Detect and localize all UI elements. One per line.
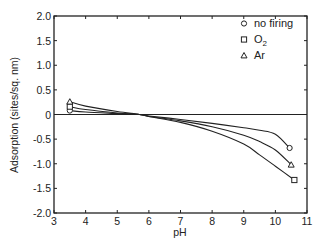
triangle-marker-icon bbox=[241, 53, 247, 58]
x-tick-label: 6 bbox=[146, 215, 152, 227]
legend-subscript: 2 bbox=[263, 39, 268, 48]
y-tick-label: -0.5 bbox=[33, 133, 51, 145]
x-tick-label: 4 bbox=[83, 215, 89, 227]
y-tick-label: 1.0 bbox=[36, 59, 51, 71]
data-curves bbox=[70, 102, 295, 180]
legend-label: Ar bbox=[254, 49, 265, 61]
legend: no firingO2Ar bbox=[241, 17, 293, 61]
x-tick-label: 11 bbox=[302, 215, 313, 227]
legend-label: no firing bbox=[254, 17, 293, 29]
adsorption-chart: 345678910112.01.51.00.50-0.5-1.0-1.5-2.0… bbox=[0, 0, 327, 249]
y-tick-label: 1.5 bbox=[36, 35, 51, 47]
x-tick-label: 9 bbox=[241, 215, 247, 227]
circle-marker-icon bbox=[287, 145, 292, 150]
triangle-marker-icon bbox=[67, 99, 73, 104]
x-tick-label: 10 bbox=[270, 215, 282, 227]
circle-marker-icon bbox=[241, 21, 246, 26]
curve-no-firing bbox=[70, 111, 290, 148]
y-tick-label: -2.0 bbox=[33, 207, 51, 219]
square-marker-icon bbox=[67, 104, 72, 109]
y-tick-label: 2.0 bbox=[36, 10, 51, 22]
y-tick-label: 0 bbox=[45, 109, 51, 121]
y-tick-label: 0.5 bbox=[36, 84, 51, 96]
y-axis-title: Adsorption (sites/sq. nm) bbox=[8, 57, 20, 173]
x-tick-label: 8 bbox=[209, 215, 215, 227]
legend-label: O2 bbox=[254, 33, 268, 48]
x-axis-title: pH bbox=[173, 226, 186, 238]
square-marker-icon bbox=[292, 177, 297, 182]
y-tick-label: -1.0 bbox=[33, 158, 51, 170]
curve-o2 bbox=[70, 107, 295, 180]
x-tick-label: 3 bbox=[51, 215, 57, 227]
square-marker-icon bbox=[241, 37, 246, 42]
x-tick-label: 5 bbox=[114, 215, 120, 227]
y-tick-label: -1.5 bbox=[33, 182, 51, 194]
